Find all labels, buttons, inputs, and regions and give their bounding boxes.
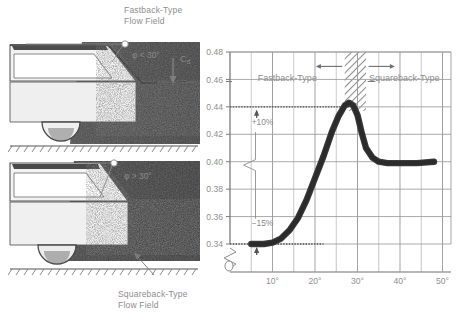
ground-line xyxy=(8,146,198,152)
squareback-angle-label: φ > 30° xyxy=(124,171,152,181)
squareback-region-label: Squareback-Type xyxy=(369,73,440,83)
axis-break-loop-icon xyxy=(225,261,233,271)
squareback-photo-svg: φ > 30° xyxy=(8,157,200,283)
x-tick-label: 20° xyxy=(309,276,322,286)
squareback-arrowhead-icon xyxy=(390,64,395,69)
plus-ten-percent-label: +10% xyxy=(252,117,274,127)
fastback-photo-svg: φ < 30° Cd xyxy=(8,36,200,158)
y-tick-label: 0.48 xyxy=(206,47,223,57)
cd-curve-core xyxy=(251,103,434,244)
y-tick-label: 0.40 xyxy=(206,157,223,167)
minus-fifteen-percent-arrowhead-icon xyxy=(254,247,259,253)
fastback-photo: φ < 30° Cd xyxy=(8,36,200,158)
fastback-angle-label: φ < 30° xyxy=(132,50,160,60)
photo-column: Fastback-Type Flow Field xyxy=(0,0,205,324)
ground-line-2 xyxy=(8,269,198,275)
fastback-region-label: Fastback-Type xyxy=(258,73,317,83)
x-tick-label: 10° xyxy=(266,276,279,286)
x-tick-label: 40° xyxy=(394,276,407,286)
cd-vs-angle-chart: 0.340.360.380.400.420.440.460.4810°20°30… xyxy=(205,0,464,324)
y-tick-label: 0.34 xyxy=(206,239,223,249)
x-tick-label: 50° xyxy=(436,276,449,286)
y-tick-label: 0.44 xyxy=(206,102,223,112)
y-tick-label: 0.42 xyxy=(206,129,223,139)
chart-svg: 0.340.360.380.400.420.440.460.4810°20°30… xyxy=(205,0,464,324)
squareback-photo: φ > 30° xyxy=(8,157,200,283)
figure-root: Fastback-Type Flow Field xyxy=(0,0,464,324)
annotation-bracket xyxy=(244,132,256,218)
car-wheel-2 xyxy=(38,245,76,264)
x-tick-label: 30° xyxy=(351,276,364,286)
cd-curve xyxy=(251,103,434,244)
y-tick-label: 0.38 xyxy=(206,184,223,194)
minus-fifteen-percent-label: −15% xyxy=(252,218,274,228)
fastback-caption: Fastback-Type Flow Field xyxy=(124,5,182,26)
plus-ten-percent-arrowhead-icon xyxy=(254,110,259,116)
squareback-caption: Squareback-Type Flow Field xyxy=(118,289,188,310)
y-tick-label: 0.36 xyxy=(206,212,223,222)
y-tick-label: 0.46 xyxy=(206,75,223,85)
fastback-arrowhead-icon xyxy=(316,64,321,69)
